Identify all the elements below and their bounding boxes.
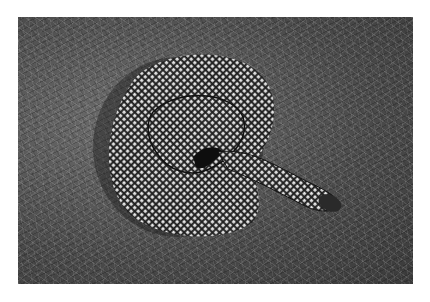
snake-photograph (18, 17, 413, 284)
snake-illustration (18, 17, 413, 284)
